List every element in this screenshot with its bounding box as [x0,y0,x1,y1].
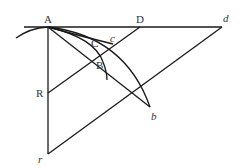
label-d: d [223,12,229,24]
label-b: b [151,110,157,122]
label-A: A [44,13,52,25]
geometry-diagram: A D d C c B R b r [0,0,242,168]
label-r: r [38,153,43,165]
label-D: D [136,13,144,25]
label-R: R [36,87,44,99]
arc-left-of-A [16,27,48,38]
label-c: c [110,32,115,44]
label-B: B [96,59,103,71]
chord-A-c [48,27,113,44]
line-dr [48,27,222,154]
label-C: C [91,37,98,49]
